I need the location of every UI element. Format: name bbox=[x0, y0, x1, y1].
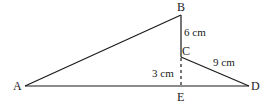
point-label-d: D bbox=[251, 79, 260, 93]
length-label-cd: 9 cm bbox=[213, 56, 235, 68]
point-label-a: A bbox=[13, 79, 22, 93]
length-label-bc: 6 cm bbox=[184, 26, 206, 38]
point-label-c: C bbox=[182, 44, 190, 58]
point-label-e: E bbox=[177, 90, 184, 104]
point-label-b: B bbox=[177, 0, 185, 14]
geometry-diagram: A B C D E 6 cm 9 cm 3 cm bbox=[0, 0, 271, 109]
length-label-ce: 3 cm bbox=[152, 67, 174, 79]
